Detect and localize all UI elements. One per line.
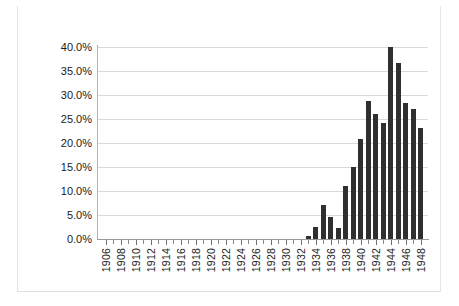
x-tick-label-1916: 1916 xyxy=(175,248,187,272)
bar-1937 xyxy=(336,228,341,239)
bar-1938 xyxy=(343,186,348,239)
x-tick-1922 xyxy=(226,240,227,245)
y-tick-label-25.0%: 25.0% xyxy=(30,114,92,125)
x-tick-1918 xyxy=(196,240,197,245)
gridline-35 xyxy=(98,71,428,72)
x-tick-1925 xyxy=(248,240,249,244)
x-tick-1946 xyxy=(406,240,407,245)
x-tick-1921 xyxy=(218,240,219,244)
x-tick-1930 xyxy=(286,240,287,245)
bar-1947 xyxy=(411,109,416,239)
x-tick-1934 xyxy=(316,240,317,245)
x-tick-1940 xyxy=(361,240,362,245)
x-tick-label-1936: 1936 xyxy=(325,248,337,272)
y-tick-label-20.0%: 20.0% xyxy=(30,138,92,149)
x-tick-label-1926: 1926 xyxy=(250,248,262,272)
figure-border-right xyxy=(440,6,441,291)
bar-1944 xyxy=(388,47,393,239)
x-tick-label-1922: 1922 xyxy=(220,248,232,272)
x-tick-1943 xyxy=(383,240,384,244)
x-tick-1923 xyxy=(233,240,234,244)
x-tick-1915 xyxy=(173,240,174,244)
x-tick-1927 xyxy=(263,240,264,244)
bar-1940 xyxy=(358,139,363,239)
x-tick-1931 xyxy=(293,240,294,244)
x-tick-1919 xyxy=(203,240,204,244)
x-tick-label-1914: 1914 xyxy=(160,248,172,272)
y-tick-label-0.0%: 0.0% xyxy=(30,234,92,245)
x-tick-1933 xyxy=(308,240,309,244)
bar-1942 xyxy=(373,114,378,239)
y-tick-label-10.0%: 10.0% xyxy=(30,186,92,197)
x-tick-label-1948: 1948 xyxy=(415,248,427,272)
y-tick-label-5.0%: 5.0% xyxy=(30,210,92,221)
x-tick-1914 xyxy=(166,240,167,245)
x-tick-1920 xyxy=(211,240,212,245)
x-tick-label-1906: 1906 xyxy=(100,248,112,272)
x-tick-label-1932: 1932 xyxy=(295,248,307,272)
x-tick-1929 xyxy=(278,240,279,244)
y-tick-label-15.0%: 15.0% xyxy=(30,162,92,173)
bar-chart-figure: 0.0%5.0%10.0%15.0%20.0%25.0%30.0%35.0%40… xyxy=(0,0,459,306)
x-tick-1928 xyxy=(271,240,272,245)
bar-1945 xyxy=(396,63,401,239)
x-tick-label-1912: 1912 xyxy=(145,248,157,272)
x-tick-1924 xyxy=(241,240,242,245)
y-tick-label-40.0%: 40.0% xyxy=(30,42,92,53)
x-tick-1908 xyxy=(121,240,122,245)
figure-border-left xyxy=(17,6,18,291)
y-axis-tick-labels: 0.0%5.0%10.0%15.0%20.0%25.0%30.0%35.0%40… xyxy=(26,0,92,306)
gridline-30 xyxy=(98,95,428,96)
x-tick-1911 xyxy=(143,240,144,244)
x-tick-label-1910: 1910 xyxy=(130,248,142,272)
x-tick-1909 xyxy=(128,240,129,244)
gridline-20 xyxy=(98,143,428,144)
bar-1934 xyxy=(313,227,318,239)
x-tick-label-1934: 1934 xyxy=(310,248,322,272)
x-tick-1938 xyxy=(346,240,347,245)
gridline-25 xyxy=(98,119,428,120)
bar-1946 xyxy=(403,103,408,239)
gridline-40 xyxy=(98,47,428,48)
y-tick-label-35.0%: 35.0% xyxy=(30,66,92,77)
x-tick-1932 xyxy=(301,240,302,245)
x-tick-1910 xyxy=(136,240,137,245)
x-tick-1937 xyxy=(338,240,339,244)
x-tick-1926 xyxy=(256,240,257,245)
x-tick-1913 xyxy=(158,240,159,244)
bar-1939 xyxy=(351,167,356,239)
x-tick-1912 xyxy=(151,240,152,245)
bar-1943 xyxy=(381,123,386,239)
x-tick-label-1928: 1928 xyxy=(265,248,277,272)
x-tick-label-1944: 1944 xyxy=(385,248,397,272)
x-tick-1939 xyxy=(353,240,354,244)
x-tick-1948 xyxy=(421,240,422,245)
plot-area xyxy=(98,47,428,239)
bar-1948 xyxy=(418,128,423,239)
x-tick-label-1938: 1938 xyxy=(340,248,352,272)
x-tick-label-1924: 1924 xyxy=(235,248,247,272)
x-tick-label-1908: 1908 xyxy=(115,248,127,272)
x-tick-1947 xyxy=(413,240,414,244)
gridline-5 xyxy=(98,215,428,216)
x-tick-1917 xyxy=(188,240,189,244)
bar-1933 xyxy=(306,236,311,239)
x-tick-1945 xyxy=(398,240,399,244)
x-tick-label-1918: 1918 xyxy=(190,248,202,272)
x-tick-1944 xyxy=(391,240,392,245)
x-tick-1916 xyxy=(181,240,182,245)
x-tick-1942 xyxy=(376,240,377,245)
x-tick-1935 xyxy=(323,240,324,244)
x-tick-1941 xyxy=(368,240,369,244)
bar-1936 xyxy=(328,217,333,239)
x-tick-label-1946: 1946 xyxy=(400,248,412,272)
x-tick-label-1930: 1930 xyxy=(280,248,292,272)
x-tick-label-1920: 1920 xyxy=(205,248,217,272)
x-tick-label-1940: 1940 xyxy=(355,248,367,272)
x-tick-1907 xyxy=(113,240,114,244)
bar-1941 xyxy=(366,101,371,239)
x-tick-label-1942: 1942 xyxy=(370,248,382,272)
x-tick-1936 xyxy=(331,240,332,245)
bar-1935 xyxy=(321,205,326,239)
y-tick-label-30.0%: 30.0% xyxy=(30,90,92,101)
